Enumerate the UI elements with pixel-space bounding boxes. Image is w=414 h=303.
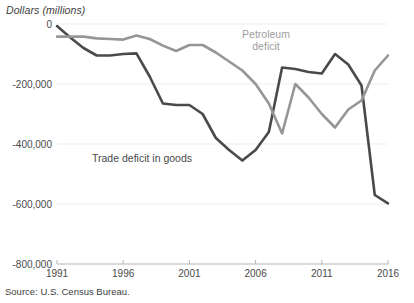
x-axis-tick-label: 1991 — [46, 268, 68, 279]
petroleum-label-line2: deficit — [252, 40, 279, 52]
petroleum-label-line1: Petroleum — [242, 28, 290, 40]
x-axis-tick-label: 2011 — [311, 268, 333, 279]
chart-figure: Dollars (millions) 0-200,000-400,000-600… — [0, 0, 414, 303]
x-axis-tick-label: 2006 — [244, 268, 266, 279]
series-label-trade: Trade deficit in goods — [92, 152, 192, 164]
x-axis-tick-label: 2016 — [377, 268, 399, 279]
series-line-trade-deficit-in-goods — [57, 26, 388, 203]
gridlines — [57, 24, 388, 204]
series-label-petroleum: Petroleum deficit — [228, 28, 304, 52]
source-note: Source: U.S. Census Bureau. — [5, 286, 130, 297]
series-lines — [57, 26, 388, 203]
x-axis-tick-label: 2001 — [178, 268, 200, 279]
axis-lines — [57, 260, 388, 264]
plot-area — [0, 0, 414, 303]
x-axis-tick-labels: 199119962001200620112016 — [0, 268, 414, 284]
x-axis-tick-label: 1996 — [112, 268, 134, 279]
